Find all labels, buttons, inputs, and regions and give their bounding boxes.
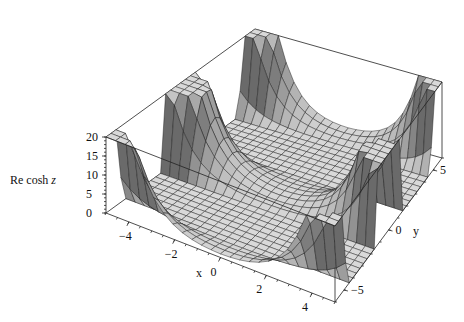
z-axis-label-var: z	[51, 173, 56, 187]
x-tick-label: 0	[211, 266, 217, 278]
z-tick-label: 5	[86, 188, 92, 200]
x-tick-label: 4	[302, 301, 308, 313]
z-axis-label: Re cosh z	[10, 174, 56, 186]
z-tick-label: 0	[86, 207, 92, 219]
surface-mesh	[106, 29, 442, 283]
x-tick-label: −4	[119, 230, 132, 242]
z-tick-label: 20	[86, 131, 98, 143]
y-tick-label: −5	[351, 284, 364, 296]
x-tick-label: 2	[256, 283, 262, 295]
x-axis-label: x	[196, 267, 202, 279]
z-tick-label: 15	[86, 150, 98, 162]
surface-plot	[0, 0, 464, 322]
y-tick-label: 0	[396, 224, 402, 236]
z-tick-label: 10	[86, 169, 98, 181]
y-tick-label: 5	[440, 164, 446, 176]
x-tick-label: −2	[165, 248, 178, 260]
z-axis-label-text: Re cosh	[10, 173, 51, 187]
y-axis-label: y	[413, 225, 419, 237]
